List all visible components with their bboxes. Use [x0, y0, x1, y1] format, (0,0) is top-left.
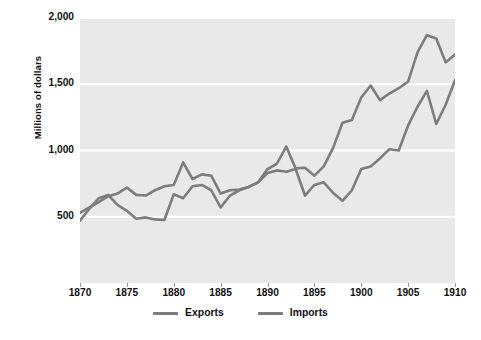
legend-label: Exports — [185, 308, 224, 318]
series-lines — [80, 35, 455, 221]
x-axis-tick-labels: 187018751880188518901895190019051910 — [0, 288, 481, 308]
chart-lines — [80, 18, 455, 283]
chart-figure: e Monroe Doctrine and the h Policy civil… — [0, 0, 481, 340]
legend-item-imports[interactable]: Imports — [258, 308, 328, 318]
y-tick-label: 2,000 — [28, 12, 74, 22]
plot-area — [80, 18, 455, 283]
legend-label: Imports — [290, 308, 328, 318]
y-tick-label: 1,000 — [28, 145, 74, 155]
series-line-exports — [80, 35, 455, 213]
chart-legend: ExportsImports — [0, 308, 481, 318]
legend-swatch-icon — [153, 312, 178, 315]
gridlines — [80, 18, 455, 217]
x-tick-label: 1910 — [428, 288, 481, 298]
y-tick-label: 500 — [28, 211, 74, 221]
legend-item-exports[interactable]: Exports — [153, 308, 224, 318]
legend-swatch-icon — [258, 312, 283, 315]
y-tick-label: 1,500 — [28, 78, 74, 88]
